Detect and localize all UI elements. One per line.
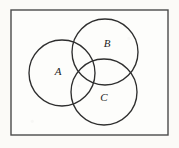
venn-diagram-canvas: A B C — [0, 0, 179, 148]
venn-diagram-figure: A B C — [0, 0, 179, 148]
universe-rectangle — [11, 10, 168, 135]
set-label-a: A — [54, 65, 62, 77]
set-label-c: C — [100, 91, 108, 103]
set-label-b: B — [104, 37, 111, 49]
